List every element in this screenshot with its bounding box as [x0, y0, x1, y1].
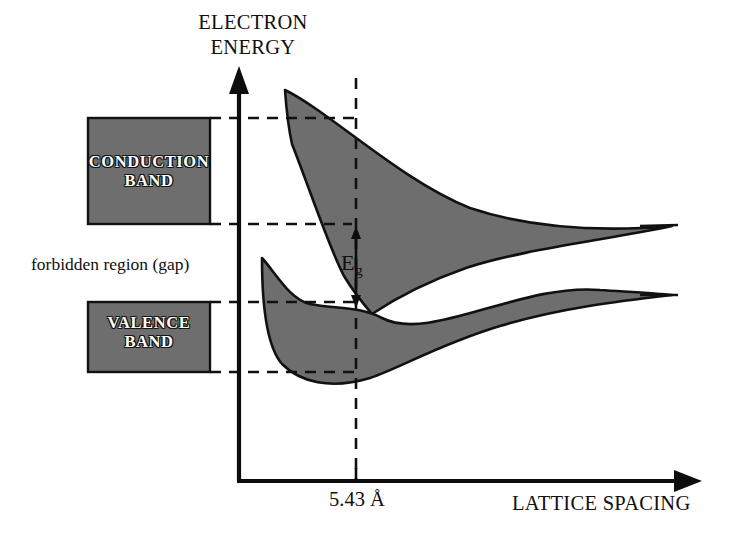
x-axis-arrow-head [674, 470, 702, 492]
conduction-band-curve [285, 90, 672, 314]
y-axis-title: ELECTRONENERGY [168, 10, 338, 60]
valence-band-curve [262, 258, 672, 384]
valence-band-label-line1: VALENCE [108, 313, 191, 332]
valence-band-label: VALENCEBAND [88, 313, 210, 351]
x-axis-tick-label: 5.43 Å [302, 488, 412, 511]
conduction-band-taper [640, 225, 678, 226]
band-gap-symbol: E [341, 250, 354, 275]
x-axis-title: LATTICE SPACING [512, 492, 691, 515]
y-axis-title-line1: ELECTRON [198, 11, 307, 33]
forbidden-region-label: forbidden region (gap) [31, 254, 189, 275]
valence-band-label-line2: BAND [124, 332, 173, 351]
band-gap-subscript: g [355, 261, 363, 278]
conduction-band-label: CONDUCTIONBAND [88, 152, 210, 190]
band-structure-figure: ELECTRONENERGY LATTICE SPACING 5.43 Å fo… [0, 0, 737, 534]
conduction-band-label-line2: BAND [124, 171, 173, 190]
y-axis-title-line2: ENERGY [211, 36, 296, 58]
y-axis-arrow-head [229, 66, 249, 94]
conduction-band-label-line1: CONDUCTION [89, 152, 210, 171]
band-gap-label: Eg [341, 250, 363, 279]
